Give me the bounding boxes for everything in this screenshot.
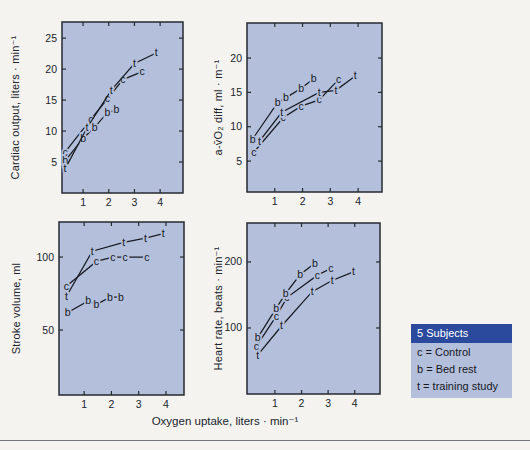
- cardiac-output-training-marker: t: [133, 57, 136, 69]
- avo2-diff-training-marker: t: [334, 84, 337, 96]
- heart-rate-xtick-label: 2: [299, 397, 305, 409]
- stroke-volume-bed-rest-marker: b: [85, 294, 91, 306]
- cardiac-output-control-marker: c: [140, 65, 145, 77]
- stroke-volume-xtick-label: 2: [108, 398, 114, 410]
- heart-rate-training-marker: t: [280, 319, 283, 331]
- avo2-diff-bed-rest-marker: b: [311, 72, 317, 84]
- cardiac-output-training-marker: t: [85, 121, 88, 133]
- avo2-diff-training-marker: t: [258, 135, 261, 147]
- avo2-diff-ytick-label: 5: [236, 155, 242, 167]
- cardiac-output-bed-rest-marker: b: [92, 121, 98, 133]
- heart-rate-y-axis-label: Heart rate, beats · min⁻¹: [212, 246, 224, 370]
- cardiac-output-training-marker: t: [64, 162, 67, 174]
- stroke-volume-training-marker: t: [144, 232, 147, 244]
- stroke-volume-bed-rest-marker: b: [65, 306, 71, 318]
- stroke-volume-control-marker: c: [122, 251, 127, 263]
- cardiac-output-bed-rest-marker: b: [105, 106, 111, 118]
- heart-rate-xtick-label: 1: [272, 397, 278, 409]
- stroke-volume-bed-rest-marker: b: [93, 298, 99, 310]
- avo2-diff-xtick-label: 4: [355, 195, 361, 207]
- avo2-diff-training-marker: t: [280, 106, 283, 118]
- avo2-diff-ytick-label: 20: [230, 52, 242, 64]
- stroke-volume-training-marker: t: [91, 245, 94, 257]
- avo2-diff-ytick-label: 15: [230, 86, 242, 98]
- figure: 1234510152025Cardiac output, liters · mi…: [0, 0, 530, 450]
- legend-item-training-study: t = training study: [411, 378, 512, 394]
- stroke-volume-ytick-label: 100: [36, 251, 54, 263]
- cardiac-output-ytick-label: 20: [45, 63, 57, 75]
- avo2-diff-bed-rest-marker: b: [250, 133, 256, 145]
- stroke-volume-control-marker: c: [94, 255, 99, 267]
- stroke-volume-plot: 123450100Stroke volume, mlcccccbbbbbtttt…: [10, 222, 184, 410]
- heart-rate-bed-rest-marker: b: [255, 331, 261, 343]
- heart-rate-bed-rest-marker: b: [273, 302, 279, 314]
- heart-rate-bed-rest-marker: b: [283, 287, 289, 299]
- stroke-volume-y-axis-label: Stroke volume, ml: [10, 263, 22, 354]
- cardiac-output-xtick-label: 2: [106, 196, 112, 208]
- heart-rate-ytick-label: 100: [224, 321, 242, 333]
- cardiac-output-xtick-label: 4: [157, 196, 163, 208]
- avo2-diff-plot: 12345101520a-v̄O₂ diff, ml · m⁻¹cccccbbb…: [212, 23, 382, 207]
- avo2-diff-training-marker: t: [318, 86, 321, 98]
- stroke-volume-bed-rest-marker: b: [107, 291, 113, 303]
- x-axis-label: Oxygen uptake, liters · min⁻¹: [60, 414, 390, 428]
- legend-item-bed-rest: b = Bed rest: [411, 361, 512, 377]
- legend-item-control: c = Control: [411, 344, 512, 360]
- cardiac-output-y-axis-label: Cardiac output, liters · min⁻¹: [9, 35, 21, 179]
- heart-rate-training-marker: t: [331, 274, 334, 286]
- cardiac-output-xtick-label: 3: [132, 196, 138, 208]
- heart-rate-control-marker: c: [315, 269, 320, 281]
- heart-rate-training-marker: t: [311, 285, 314, 297]
- avo2-diff-bed-rest-marker: b: [283, 91, 289, 103]
- heart-rate-xtick-label: 4: [352, 397, 358, 409]
- heart-rate-training-marker: t: [256, 349, 259, 361]
- heart-rate-bed-rest-marker: b: [312, 257, 318, 269]
- cardiac-output-xtick-label: 1: [80, 196, 86, 208]
- cardiac-output-training-marker: t: [155, 46, 158, 58]
- cardiac-output-plot: 1234510152025Cardiac output, liters · mi…: [9, 22, 183, 208]
- stroke-volume-ytick-label: 50: [42, 324, 54, 336]
- stroke-volume-xtick-label: 1: [81, 398, 87, 410]
- cardiac-output-ytick-label: 25: [45, 32, 57, 44]
- bottom-rule: [0, 440, 530, 441]
- cardiac-output-ytick-label: 15: [45, 94, 57, 106]
- stroke-volume-control-marker: c: [144, 251, 149, 263]
- cardiac-output-bed-rest-marker: b: [114, 103, 120, 115]
- stroke-volume-xtick-label: 4: [163, 398, 169, 410]
- cardiac-output-training-marker: t: [110, 84, 113, 96]
- heart-rate-plot: 1234100200Heart rate, beats · min⁻¹ccccc…: [212, 223, 380, 409]
- cardiac-output-ytick-label: 5: [51, 156, 57, 168]
- avo2-diff-xtick-label: 2: [300, 195, 306, 207]
- stroke-volume-control-marker: c: [110, 251, 115, 263]
- stroke-volume-training-marker: t: [162, 227, 165, 239]
- heart-rate-control-marker: c: [328, 262, 333, 274]
- legend: 5 Subjects c = Control b = Bed rest t = …: [411, 324, 512, 398]
- heart-rate-bed-rest-marker: b: [297, 268, 303, 280]
- avo2-diff-bed-rest-marker: b: [298, 82, 304, 94]
- legend-header: 5 Subjects: [411, 324, 512, 343]
- avo2-diff-xtick-label: 1: [272, 195, 278, 207]
- stroke-volume-bed-rest-marker: b: [118, 291, 124, 303]
- heart-rate-ytick-label: 200: [224, 255, 242, 267]
- avo2-diff-control-marker: c: [251, 146, 256, 158]
- avo2-diff-xtick-label: 3: [327, 195, 333, 207]
- stroke-volume-xtick-label: 3: [136, 398, 142, 410]
- avo2-diff-y-axis-label: a-v̄O₂ diff, ml · m⁻¹: [212, 59, 224, 155]
- avo2-diff-training-marker: t: [354, 69, 357, 81]
- cardiac-output-ytick-label: 10: [45, 125, 57, 137]
- heart-rate-xtick-label: 3: [325, 397, 331, 409]
- avo2-diff-ytick-label: 10: [230, 120, 242, 132]
- stroke-volume-training-marker: t: [65, 290, 68, 302]
- heart-rate-training-marker: t: [352, 265, 355, 277]
- stroke-volume-training-marker: t: [122, 236, 125, 248]
